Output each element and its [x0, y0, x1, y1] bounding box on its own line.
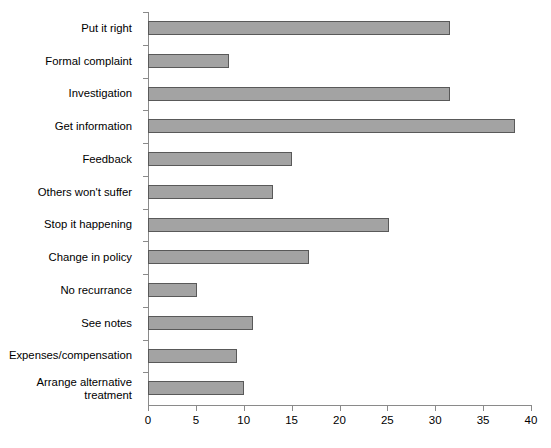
y-axis-label: Get information: [0, 120, 132, 133]
x-tick: [531, 405, 532, 411]
x-tick: [435, 405, 436, 411]
bar: [148, 381, 244, 395]
bar: [148, 185, 273, 199]
bar: [148, 54, 229, 68]
bar: [148, 218, 389, 232]
y-axis-label: Investigation: [0, 87, 132, 100]
x-tick-label: 35: [463, 413, 503, 427]
x-tick-label: 5: [176, 413, 216, 427]
y-axis-category-labels: Put it rightFormal complaintInvestigatio…: [0, 12, 140, 405]
bar: [148, 316, 253, 330]
x-tick-label: 30: [415, 413, 455, 427]
x-tick-label: 0: [128, 413, 168, 427]
bar-rows: [148, 12, 531, 405]
y-axis-label: Others won't suffer: [0, 186, 132, 199]
y-axis-label: Feedback: [0, 153, 132, 166]
x-tick: [340, 405, 341, 411]
bar-row: [148, 110, 531, 143]
y-axis-label: Formal complaint: [0, 55, 132, 68]
bar: [148, 152, 292, 166]
y-axis-label: Expenses/compensation: [0, 349, 132, 362]
x-tick: [387, 405, 388, 411]
bar: [148, 21, 450, 35]
plot-area: [148, 12, 531, 405]
bar: [148, 250, 309, 264]
bar: [148, 283, 197, 297]
bar-row: [148, 372, 531, 405]
y-axis-label: See notes: [0, 317, 132, 330]
x-tick-label: 40: [511, 413, 551, 427]
bar-row: [148, 209, 531, 242]
bar: [148, 87, 450, 101]
bar-row: [148, 143, 531, 176]
x-tick-label: 25: [367, 413, 407, 427]
bar-row: [148, 78, 531, 111]
y-axis-label: Arrange alternative treatment: [0, 376, 132, 402]
y-axis-label: No recurrance: [0, 284, 132, 297]
x-tick-label: 10: [224, 413, 264, 427]
x-tick: [148, 405, 149, 411]
x-tick: [483, 405, 484, 411]
y-axis-label: Put it right: [0, 22, 132, 35]
y-axis-label: Change in policy: [0, 251, 132, 264]
bar: [148, 119, 515, 133]
bar-row: [148, 340, 531, 373]
bar-row: [148, 12, 531, 45]
x-tick-label: 20: [320, 413, 360, 427]
y-axis-label: Stop it happening: [0, 218, 132, 231]
x-tick: [196, 405, 197, 411]
bar-row: [148, 241, 531, 274]
x-tick-label: 15: [272, 413, 312, 427]
x-tick: [244, 405, 245, 411]
bar: [148, 349, 237, 363]
bar-row: [148, 307, 531, 340]
bar-row: [148, 176, 531, 209]
bar-row: [148, 274, 531, 307]
bar-row: [148, 45, 531, 78]
x-tick: [292, 405, 293, 411]
bar-chart: Put it rightFormal complaintInvestigatio…: [0, 0, 551, 448]
